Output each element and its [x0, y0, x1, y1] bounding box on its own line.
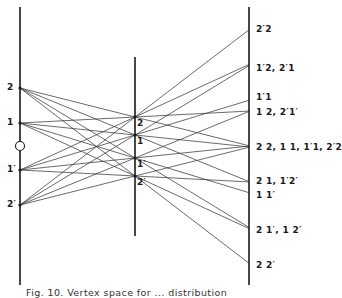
figure-caption: Fig. 10. Vertex space for ... distributi… [26, 287, 227, 298]
right-labels-label: 1′2, 2′1 [256, 63, 295, 73]
right-labels-label: 1′1 [256, 92, 272, 102]
right-labels-label: 2 1, 1′2′ [256, 176, 298, 186]
middle-points-label: 2 [137, 118, 144, 128]
axis-points [18, 86, 136, 206]
point-dot-icon [18, 121, 21, 124]
middle-points-label: 2′ [137, 177, 146, 187]
left-points-label: 2 [7, 82, 14, 92]
point-dot-icon [18, 203, 21, 206]
right-labels-label: 2 2, 1 1, 1′1, 2′2 [256, 142, 342, 152]
point-dot-icon [18, 168, 21, 171]
left-points-label: 1′ [7, 164, 16, 174]
left-points-label: 2′ [7, 199, 16, 209]
right-labels-label: 2 1′, 1 2′ [256, 225, 302, 235]
point-dot-icon [18, 86, 21, 89]
left-points-label: 1 [7, 117, 14, 127]
middle-points-label: 1 [137, 136, 144, 146]
right-labels-label: 2 2′ [256, 260, 275, 270]
origin-marker-icon [16, 142, 25, 151]
middle-points-label: 1′ [137, 159, 146, 169]
right-labels-label: 2′2 [256, 24, 272, 34]
right-labels-label: 1 1′ [256, 190, 275, 200]
right-labels-label: 1 2, 2′1′ [256, 107, 298, 117]
